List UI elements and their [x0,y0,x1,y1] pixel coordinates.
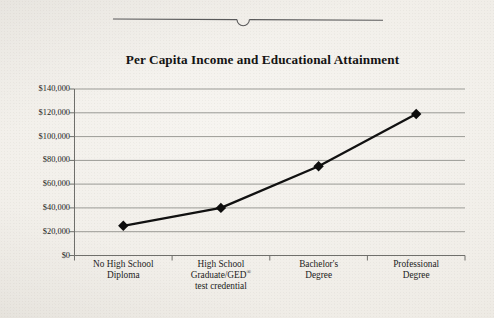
x-axis-label-line: test credential [172,281,270,292]
x-axis-category-label: Bachelor'sDegree [270,259,368,281]
x-axis-label-line: Degree [270,270,368,281]
x-axis-label-line: Diploma [75,270,173,281]
x-axis-label-line: Degree [367,270,465,281]
x-axis-label-line: Graduate/GED® [172,270,270,281]
chart-container: Per Capita Income and Educational Attain… [0,0,494,318]
x-axis-label-line: High School [172,259,270,270]
x-axis-label-line: No High School [75,259,173,270]
x-axis-category-label: No High SchoolDiploma [75,259,173,281]
x-axis-category-label: High SchoolGraduate/GED®test credential [172,259,270,293]
footnote-marker: ® [246,269,251,275]
x-axis-category-label: ProfessionalDegree [367,259,465,281]
x-axis-label-line: Bachelor's [270,259,368,270]
x-axis-label-line: Professional [367,259,465,270]
x-axis-category-labels: No High SchoolDiplomaHigh SchoolGraduate… [0,0,494,318]
